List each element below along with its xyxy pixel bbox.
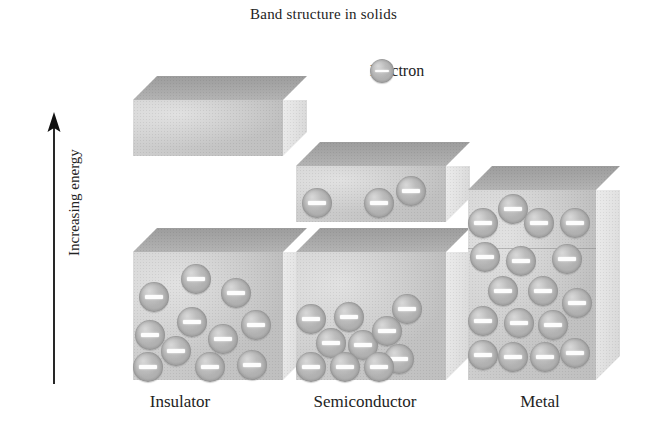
electron-sphere-icon [530,342,560,372]
metal-overlapping-bands-right-face [596,190,620,380]
insulator-conduction-band [133,100,283,156]
texture [133,228,307,252]
electron-sphere-icon [161,336,191,366]
material-label-semiconductor: Semiconductor [265,392,465,412]
material-label-metal: Metal [440,392,640,412]
page-title: Band structure in solids [0,6,647,23]
semiconductor-conduction-band-right-face [446,166,470,222]
electron-sphere-icon [302,188,332,218]
insulator-valence-band [133,252,283,380]
electron-sphere-icon [221,278,251,308]
electron-sphere-icon [177,307,207,337]
texture [446,166,470,222]
electron-sphere-icon [139,282,169,312]
electron-sphere-icon [470,242,500,272]
electron-sphere-icon [372,316,402,346]
insulator-conduction-band-right-face [283,100,307,156]
up-arrow-icon [47,112,61,384]
semiconductor-conduction-band-top-face [296,142,470,166]
electron-sphere-icon [468,306,498,336]
electron-sphere-icon [296,352,326,382]
legend: Electron [370,62,424,80]
texture [133,100,283,156]
electron-sphere-icon [538,310,568,340]
electron-sphere-icon [208,324,238,354]
texture [596,190,620,380]
electron-sphere-icon [506,246,536,276]
electron-sphere-icon [364,188,394,218]
electron-sphere-icon [334,302,364,332]
electron-sphere-icon [241,310,271,340]
semiconductor-valence-band-top-face [296,228,470,252]
electron-sphere-icon [468,340,498,370]
electron-sphere-icon [498,342,528,372]
texture [296,142,470,166]
electron-sphere-icon [364,352,394,382]
electron-sphere-icon [195,352,225,382]
semiconductor-conduction-band [296,166,446,222]
semiconductor-valence-band-front-face [296,252,446,380]
electron-sphere-icon [237,350,267,380]
texture [133,76,307,100]
metal-overlapping-bands-front-face [468,190,596,380]
electron-sphere-icon [524,208,554,238]
insulator-conduction-band-top-face [133,76,307,100]
energy-axis: Increasing energy [47,112,61,384]
insulator-valence-band-top-face [133,228,307,252]
texture [296,228,470,252]
electron-sphere-icon [181,264,211,294]
material-label-insulator: Insulator [80,392,280,412]
electron-sphere-icon [133,352,163,382]
electron-sphere-icon [330,352,360,382]
electron-sphere-icon [488,276,518,306]
figure-canvas: Band structure in solids Electron Increa… [0,0,647,431]
insulator-conduction-band-front-face [133,100,283,156]
electron-sphere-icon [135,320,165,350]
insulator-valence-band-front-face [133,252,283,380]
semiconductor-valence-band-right-face [446,252,470,380]
electron-sphere-icon [396,176,426,206]
texture [283,100,307,156]
metal-overlapping-bands [468,190,596,380]
electron-sphere-icon [468,208,498,238]
electron-sphere-icon [560,338,590,368]
electron-sphere-icon [562,288,592,318]
electron-sphere-icon [552,244,582,274]
texture [468,166,620,190]
texture [446,252,470,380]
energy-axis-label: Increasing energy [66,113,83,293]
metal-overlapping-bands-top-face [468,166,620,190]
electron-sphere-icon [528,276,558,306]
semiconductor-conduction-band-front-face [296,166,446,222]
electron-sphere-icon [296,304,326,334]
electron-sphere-icon [504,308,534,338]
semiconductor-valence-band [296,252,446,380]
electron-sphere-icon [560,208,590,238]
electron-sphere-icon [370,59,394,83]
